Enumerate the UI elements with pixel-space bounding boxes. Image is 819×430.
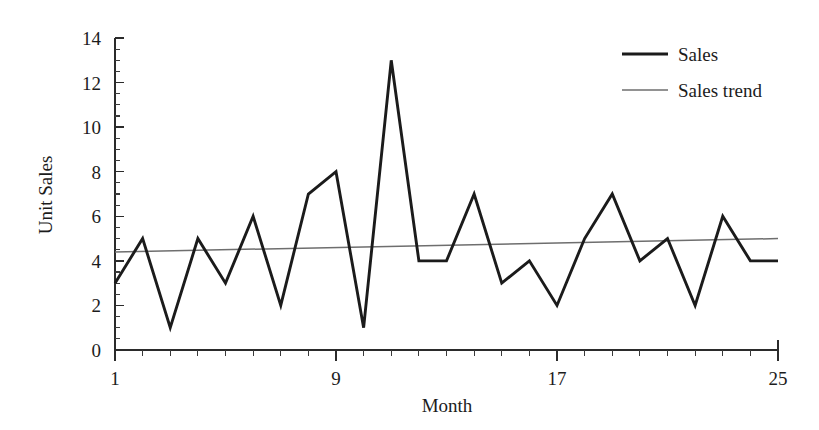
sales-line-chart-figure: 02468101214 191725 Unit Sales Month Sale…	[0, 0, 819, 430]
y-tick-label: 0	[92, 340, 102, 361]
y-tick-label: 8	[92, 162, 102, 183]
x-tick-label: 9	[331, 368, 341, 389]
legend-label-sales: Sales	[678, 44, 718, 65]
series-line-sales-trend	[115, 239, 778, 252]
y-tick-label: 14	[82, 28, 102, 49]
x-tick-label: 1	[110, 368, 120, 389]
x-axis-tick-labels: 191725	[110, 368, 787, 389]
x-tick-label: 25	[769, 368, 788, 389]
legend-label-sales-trend: Sales trend	[678, 80, 762, 101]
y-axis-title: Unit Sales	[35, 156, 56, 235]
y-tick-label: 10	[82, 117, 101, 138]
y-axis-ticks	[115, 38, 124, 350]
y-tick-label: 6	[92, 206, 102, 227]
y-tick-label: 4	[92, 251, 102, 272]
x-axis-title: Month	[422, 395, 473, 416]
chart-canvas: 02468101214 191725 Unit Sales Month Sale…	[0, 0, 819, 430]
y-axis-tick-labels: 02468101214	[82, 28, 102, 361]
y-tick-label: 2	[92, 295, 102, 316]
chart-legend: Sales Sales trend	[622, 44, 762, 101]
y-tick-label: 12	[82, 73, 101, 94]
x-tick-label: 17	[548, 368, 567, 389]
